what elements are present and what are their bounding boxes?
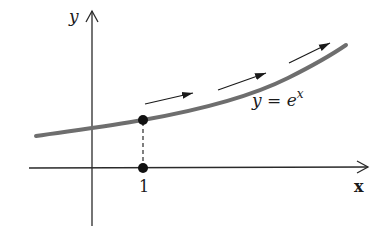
axis-point [138,163,148,173]
curve-label-exponent: x [297,87,304,101]
curve-label-base: y = e [251,90,297,110]
curve-point [138,115,148,125]
y-axis-label: y [68,6,79,26]
x-axis [29,167,368,168]
curve-label: y = ex [251,87,304,110]
exponential-diagram: y x 1 y = ex [0,0,386,236]
x-tick-label-1: 1 [139,177,149,196]
flow-arrow-2 [218,73,266,90]
x-axis-label: x [354,177,364,196]
flow-arrow-1 [145,93,193,104]
